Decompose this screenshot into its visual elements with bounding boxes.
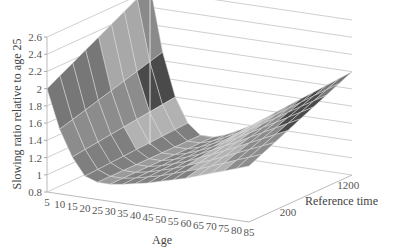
z-tick-label: 2.4	[28, 48, 42, 60]
z-tick-label: 1.6	[28, 117, 42, 129]
x-tick-label: 35	[117, 207, 129, 219]
z-axis-ticks: 0.811.21.41.61.822.22.42.6	[28, 31, 47, 198]
x-tick-label: 70	[206, 220, 218, 232]
x-tick-label: 75	[218, 222, 230, 234]
z-tick-label: 1	[37, 169, 43, 181]
y-tick-label: 200	[280, 206, 297, 218]
z-axis-label: Slowing ratio relative to age 25	[10, 39, 24, 190]
x-axis-ticks: 510152025303540455055606570758085	[44, 196, 255, 238]
surface-mesh	[47, 0, 352, 184]
x-tick-label: 85	[244, 226, 256, 238]
x-axis-label: Age	[152, 233, 172, 247]
z-tick-label: 0.8	[28, 186, 42, 198]
x-tick-label: 65	[193, 219, 205, 231]
x-tick-label: 25	[92, 204, 104, 216]
z-tick-label: 1.8	[28, 100, 42, 112]
z-tick-label: 1.4	[28, 134, 42, 146]
x-tick-label: 80	[231, 224, 243, 236]
x-tick-label: 20	[79, 202, 91, 214]
surface-chart: 0.811.21.41.61.822.22.42.6 5101520253035…	[0, 0, 408, 249]
x-tick-label: 10	[54, 198, 66, 210]
x-tick-label: 30	[105, 205, 117, 217]
x-tick-label: 5	[44, 196, 50, 208]
x-tick-label: 40	[130, 209, 142, 221]
x-tick-label: 60	[180, 217, 192, 229]
z-tick-label: 2.2	[28, 65, 42, 77]
y-tick-label: 1200	[337, 179, 360, 191]
z-tick-label: 2	[37, 83, 43, 95]
x-tick-label: 15	[67, 200, 79, 212]
z-tick-label: 2.6	[28, 31, 42, 43]
x-tick-label: 55	[168, 215, 180, 227]
x-tick-label: 50	[155, 213, 167, 225]
z-tick-label: 1.2	[28, 152, 42, 164]
y-axis-label: Reference time	[305, 194, 378, 208]
x-tick-label: 45	[143, 211, 155, 223]
